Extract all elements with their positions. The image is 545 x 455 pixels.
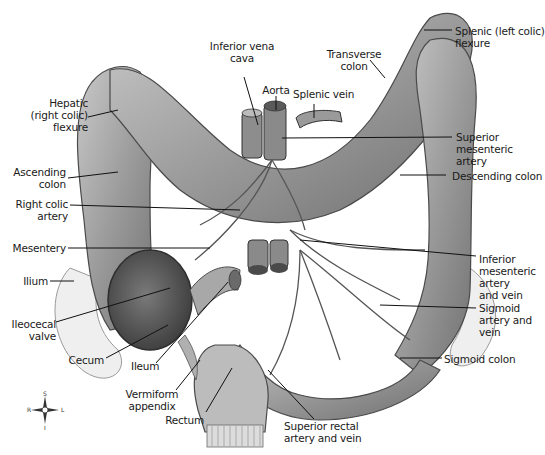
label-right-colic-artery: Right colic artery bbox=[4, 198, 68, 222]
label-vermiform-appendix: Vermiform appendix bbox=[120, 388, 184, 412]
label-descending-colon: Descending colon bbox=[452, 170, 542, 182]
label-superior-rectal: Superior rectal artery and vein bbox=[284, 420, 362, 444]
label-ileocecal-valve: Ileocecal valve bbox=[4, 318, 56, 342]
rectum bbox=[194, 345, 268, 432]
label-ileum: Ileum bbox=[131, 360, 159, 372]
compass-inferior: I bbox=[44, 424, 46, 431]
label-hepatic-flexure: Hepatic (right colic) flexure bbox=[12, 97, 88, 133]
aorta bbox=[264, 105, 286, 160]
vermiform-appendix bbox=[178, 335, 197, 380]
label-ilium: Ilium bbox=[4, 275, 48, 287]
label-rectum: Rectum bbox=[160, 414, 204, 426]
transverse-colon bbox=[110, 13, 472, 222]
label-aorta: Aorta bbox=[258, 84, 294, 96]
orientation-compass bbox=[31, 396, 59, 424]
label-splenic-flexure: Splenic (left colic) flexure bbox=[455, 25, 545, 49]
label-ascending-colon: Ascending colon bbox=[4, 166, 66, 190]
label-sigmoid-colon: Sigmoid colon bbox=[444, 353, 515, 365]
anal-canal bbox=[207, 425, 263, 447]
label-superior-mesenteric-artery: Superior mesenteric artery bbox=[456, 131, 513, 167]
label-transverse-colon: Transverse colon bbox=[318, 48, 390, 72]
label-inferior-mesenteric: Inferior mesenteric artery and vein bbox=[479, 253, 536, 301]
compass-right: R bbox=[27, 406, 31, 413]
label-sigmoid-artery: Sigmoid artery and vein bbox=[479, 302, 532, 338]
compass-left: L bbox=[61, 406, 64, 413]
label-inferior-vena-cava: Inferior vena cava bbox=[200, 40, 284, 64]
label-splenic-vein: Splenic vein bbox=[293, 88, 354, 100]
compass-superior: S bbox=[43, 390, 47, 397]
label-mesentery: Mesentery bbox=[4, 242, 66, 254]
splenic-vein bbox=[296, 110, 342, 128]
label-cecum: Cecum bbox=[60, 354, 104, 366]
inferior-vena-cava bbox=[242, 112, 262, 158]
